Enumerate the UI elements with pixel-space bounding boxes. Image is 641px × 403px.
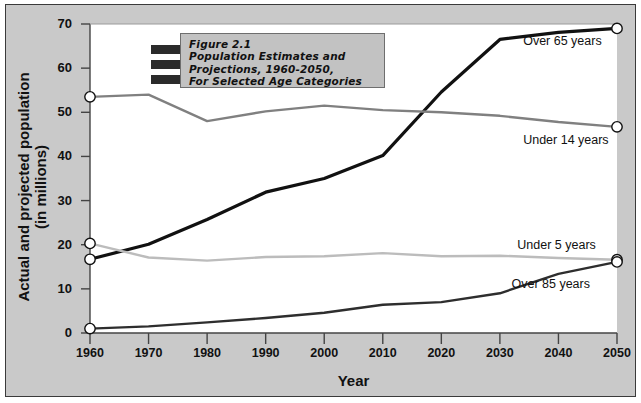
figure-title-box: Figure 2.1 Population Estimates and Proj… bbox=[180, 33, 385, 88]
y-axis-title-line2: (in millions) bbox=[32, 145, 49, 229]
figure-title-line-4: For Selected Age Categories bbox=[189, 75, 380, 87]
x-axis-title: Year bbox=[90, 372, 617, 389]
series-line-under-14-years bbox=[90, 95, 617, 127]
series-line-over-85-years bbox=[90, 262, 617, 329]
series-label-over-65-years: Over 65 years bbox=[523, 34, 602, 48]
figure-title-line-1: Figure 2.1 bbox=[189, 38, 380, 50]
endpoint-marker-under-14-years-2050 bbox=[612, 122, 622, 132]
endpoint-marker-over-85-years-2050 bbox=[612, 257, 622, 267]
figure-title-line-2: Population Estimates and bbox=[189, 50, 380, 62]
x-tick-label-1970: 1970 bbox=[122, 347, 176, 360]
y-axis-title: Actual and projected population (in mill… bbox=[15, 37, 49, 337]
figure-title-line-3: Projections, 1960-2050, bbox=[189, 63, 380, 75]
series-label-under-14-years: Under 14 years bbox=[523, 133, 608, 147]
x-tick-label-2030: 2030 bbox=[473, 347, 527, 360]
x-tick-label-2050: 2050 bbox=[590, 347, 641, 360]
endpoint-marker-under-14-years-1960 bbox=[85, 92, 95, 102]
x-tick-label-2010: 2010 bbox=[356, 347, 410, 360]
series-label-over-85-years: Over 85 years bbox=[511, 277, 590, 291]
y-axis-title-line1: Actual and projected population bbox=[15, 72, 32, 301]
x-tick-label-1980: 1980 bbox=[180, 347, 234, 360]
x-tick-label-2020: 2020 bbox=[414, 347, 468, 360]
series-label-under-5-years: Under 5 years bbox=[517, 238, 596, 252]
x-tick-label-2000: 2000 bbox=[297, 347, 351, 360]
figure-container: 010203040506070 196019701980199020002010… bbox=[0, 0, 641, 403]
endpoint-marker-over-65-years-1960 bbox=[85, 254, 95, 264]
x-tick-label-2040: 2040 bbox=[531, 347, 585, 360]
endpoint-marker-under-5-years-1960 bbox=[85, 238, 95, 248]
x-tick-label-1990: 1990 bbox=[239, 347, 293, 360]
endpoint-marker-over-85-years-1960 bbox=[85, 323, 95, 333]
endpoint-marker-over-65-years-2050 bbox=[612, 23, 622, 33]
x-tick-label-1960: 1960 bbox=[63, 347, 117, 360]
y-tick-label-70: 70 bbox=[32, 17, 72, 30]
